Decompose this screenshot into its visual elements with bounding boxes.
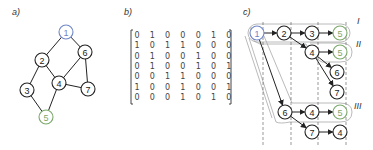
graph-node-2: 2 [35, 53, 49, 67]
matrix-cell: 0 [211, 62, 216, 71]
tree-node-4: 4 [333, 125, 347, 139]
svg-text:3: 3 [309, 29, 314, 39]
matrix-cell: 0 [165, 83, 170, 92]
svg-text:6: 6 [334, 68, 339, 78]
tree-node-5: 5 [333, 45, 347, 59]
matrix-cell: 1 [211, 93, 216, 102]
svg-text:1: 1 [254, 29, 259, 39]
matrix-cell: 0 [165, 93, 170, 102]
tree-node-7: 7 [330, 85, 344, 99]
group-label-II: II [356, 39, 362, 49]
svg-text:2: 2 [281, 29, 286, 39]
matrix-cell: 0 [196, 93, 201, 102]
tree-node-2: 2 [277, 26, 291, 40]
matrix-cell: 1 [165, 41, 170, 50]
group-label-III: III [354, 101, 362, 111]
panel-c-label: c) [243, 7, 251, 17]
matrix-cell: 0 [134, 52, 139, 61]
matrix-cell: 1 [150, 62, 155, 71]
matrix-cell: 0 [150, 41, 155, 50]
svg-text:6: 6 [82, 48, 87, 58]
matrix-cell: 0 [134, 93, 139, 102]
tree-node-3: 3 [305, 26, 319, 40]
svg-text:5: 5 [43, 113, 48, 123]
matrix-cell: 0 [211, 72, 216, 81]
matrix-cell: 1 [165, 72, 170, 81]
svg-text:2: 2 [39, 56, 44, 66]
tree-node-4: 4 [305, 45, 319, 59]
matrix-cell: 0 [134, 72, 139, 81]
matrix-left-bracket [131, 30, 133, 104]
svg-text:4: 4 [56, 79, 61, 89]
graph-node-5: 5 [39, 110, 53, 124]
tree-node-4: 4 [305, 105, 319, 119]
matrix-cell: 0 [196, 72, 201, 81]
matrix-cell: 1 [211, 31, 216, 40]
svg-text:5: 5 [337, 48, 342, 58]
svg-text:5: 5 [337, 108, 342, 118]
svg-text:4: 4 [309, 108, 314, 118]
matrix-cell: 0 [134, 62, 139, 71]
matrix-cell: 0 [165, 31, 170, 40]
graph-node-4: 4 [52, 76, 66, 90]
matrix-cell: 0 [150, 72, 155, 81]
svg-text:7: 7 [85, 85, 90, 95]
svg-text:5: 5 [337, 29, 342, 39]
tree-node-7: 7 [305, 125, 319, 139]
svg-text:3: 3 [24, 86, 29, 96]
group-label-I: I [357, 16, 360, 26]
panel-a-graph: 1264735 [20, 25, 95, 124]
matrix-cell: 1 [196, 62, 201, 71]
matrix-cell: 0 [196, 41, 201, 50]
matrix-cell: 0 [211, 41, 216, 50]
matrix-cell: 0 [196, 83, 201, 92]
matrix-cell: 1 [134, 41, 139, 50]
tree-node-5: 5 [333, 105, 347, 119]
matrix-cell: 0 [165, 62, 170, 71]
graph-node-7: 7 [81, 82, 95, 96]
matrix-cell: 0 [211, 83, 216, 92]
tree-node-6: 6 [278, 105, 292, 119]
matrix-cell: 0 [196, 31, 201, 40]
figure: a) b) c) 1264735 01000101011000010010001… [0, 0, 373, 150]
matrix-cell: 1 [196, 52, 201, 61]
svg-text:4: 4 [337, 128, 342, 138]
matrix-cell: 0 [180, 52, 185, 61]
panel-b-matrix: 0100010101100001001000100101001100010010… [131, 30, 231, 104]
matrix-cell: 0 [180, 62, 185, 71]
graph-node-1: 1 [59, 25, 73, 39]
panel-b-label: b) [124, 7, 132, 17]
panel-c-tree: 1235456764574IIIIII [245, 16, 362, 146]
matrix-cell: 0 [150, 93, 155, 102]
tree-node-1: 1 [250, 26, 264, 40]
matrix-cell: 1 [134, 83, 139, 92]
matrix-cell: 1 [180, 72, 185, 81]
tree-node-5: 5 [333, 26, 347, 40]
panel-a-label: a) [12, 7, 20, 17]
matrix-cell: 0 [180, 31, 185, 40]
matrix-cell: 1 [180, 83, 185, 92]
matrix-cell: 1 [180, 93, 185, 102]
graph-node-6: 6 [78, 45, 92, 59]
matrix-cell: 1 [150, 31, 155, 40]
svg-text:7: 7 [309, 128, 314, 138]
matrix-cell: 0 [165, 52, 170, 61]
svg-text:4: 4 [309, 48, 314, 58]
matrix-cell: 0 [150, 83, 155, 92]
tree-node-6: 6 [330, 65, 344, 79]
svg-text:1: 1 [63, 28, 68, 38]
matrix-cell: 1 [150, 52, 155, 61]
svg-text:6: 6 [282, 108, 287, 118]
matrix-cell: 0 [211, 52, 216, 61]
matrix-cell: 1 [180, 41, 185, 50]
svg-text:7: 7 [334, 88, 339, 98]
graph-node-3: 3 [20, 83, 34, 97]
matrix-cell: 0 [134, 31, 139, 40]
